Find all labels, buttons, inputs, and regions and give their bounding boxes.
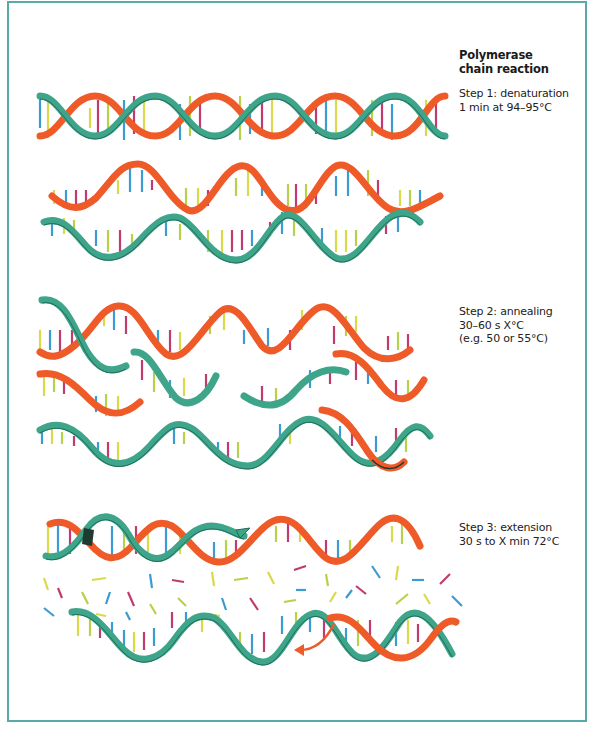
step-1-label: Step 1: denaturation 1 min at 94–95°C <box>459 87 569 114</box>
step2-template-red-strand <box>40 306 410 359</box>
step1-separated-green-strand <box>44 212 420 263</box>
step-3-condition: 30 s to X min 72°C <box>459 535 559 549</box>
step-2-example: (e.g. 50 or 55°C) <box>459 332 553 346</box>
step1-double-helix <box>40 96 445 140</box>
title-line-2: chain reaction <box>459 62 549 76</box>
step2-short-green-fragment-right <box>244 370 346 405</box>
step1-separated-red-strand <box>52 164 440 212</box>
step-1-condition: 1 min at 94–95°C <box>459 101 569 115</box>
step-1-title: Step 1: denaturation <box>459 87 569 101</box>
step-3-title: Step 3: extension <box>459 521 559 535</box>
step-2-label: Step 2: annealing 30–60 s X°C (e.g. 50 o… <box>459 305 553 346</box>
extension-arrow-reverse <box>294 644 304 656</box>
diagram-title: Polymerase chain reaction <box>459 48 549 76</box>
step2-short-red-fragment-left <box>40 373 140 416</box>
title-line-1: Polymerase <box>459 48 549 62</box>
step3-upper-duplex <box>46 517 420 562</box>
step-2-title: Step 2: annealing <box>459 305 553 319</box>
step-2-condition: 30–60 s X°C <box>459 319 553 333</box>
free-nucleotides <box>44 566 462 620</box>
step-3-label: Step 3: extension 30 s to X min 72°C <box>459 521 559 548</box>
